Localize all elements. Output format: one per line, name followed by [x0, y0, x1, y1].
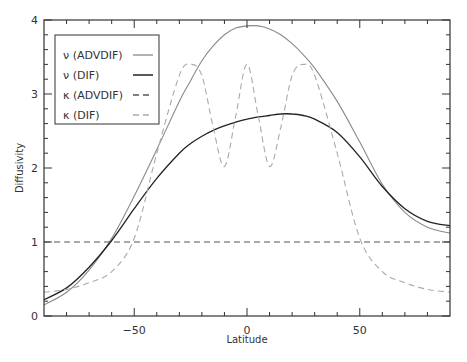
x-tick-label: −50	[123, 324, 146, 337]
series-line-1	[44, 114, 450, 300]
x-axis-title: Latitude	[226, 334, 267, 345]
y-tick-label: 3	[31, 88, 38, 101]
y-tick-label: 4	[31, 14, 38, 27]
legend: ν (ADVDIF)ν (DIF)κ (ADVDIF)κ (DIF)	[55, 35, 159, 124]
y-tick-label: 0	[31, 310, 38, 323]
legend-label: κ (DIF)	[63, 109, 100, 122]
y-tick-label: 2	[31, 162, 38, 175]
y-axis-title: Diffusivity	[14, 143, 25, 193]
legend-label: ν (ADVDIF)	[63, 49, 123, 62]
x-tick-label: 50	[353, 324, 367, 337]
y-tick-label: 1	[31, 236, 38, 249]
diffusivity-line-chart: −5005001234 Latitude Diffusivity ν (ADVD…	[0, 0, 467, 362]
legend-label: κ (ADVDIF)	[63, 89, 123, 102]
legend-label: ν (DIF)	[63, 69, 99, 82]
